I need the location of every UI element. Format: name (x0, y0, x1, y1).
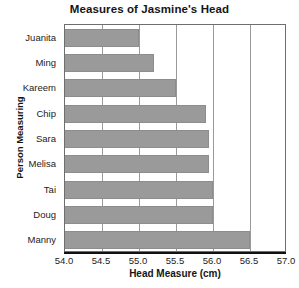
category-label-ming: Ming (0, 57, 56, 68)
bar (65, 105, 206, 123)
bar (65, 54, 154, 72)
category-label-kareem: Kareem (0, 82, 56, 93)
category-label-doug: Doug (0, 209, 56, 220)
grid-line (250, 25, 251, 251)
bar (65, 206, 213, 224)
x-tick-label: 54.5 (81, 255, 121, 266)
bar (65, 231, 250, 249)
bar (65, 181, 213, 199)
x-axis-line (64, 252, 286, 254)
x-tick-label: 56.5 (229, 255, 269, 266)
x-tick-label: 54.0 (44, 255, 84, 266)
category-label-sara: Sara (0, 133, 56, 144)
x-axis-tick-labels: 54.054.555.055.556.056.557.0 (0, 255, 299, 269)
category-label-melisa: Melisa (0, 158, 56, 169)
category-label-juanita: Juanita (0, 31, 56, 42)
bar (65, 130, 209, 148)
category-label-tai: Tai (0, 183, 56, 194)
x-tick-label: 56.0 (192, 255, 232, 266)
bar (65, 79, 176, 97)
bar (65, 155, 209, 173)
bar-chart: Measures of Jasmine's Head Person Measur… (0, 0, 299, 288)
category-axis-labels: JuanitaMingKareemChipSaraMelisaTaiDougMa… (0, 24, 60, 252)
x-tick-label: 55.0 (118, 255, 158, 266)
x-tick-label: 57.0 (266, 255, 299, 266)
grid-line (213, 25, 214, 251)
plot-area (64, 24, 286, 252)
category-label-chip: Chip (0, 107, 56, 118)
x-axis-label: Head Measure (cm) (64, 268, 286, 279)
x-tick-label: 55.5 (155, 255, 195, 266)
bar (65, 29, 139, 47)
chart-title: Measures of Jasmine's Head (0, 3, 299, 15)
category-label-manny: Manny (0, 234, 56, 245)
